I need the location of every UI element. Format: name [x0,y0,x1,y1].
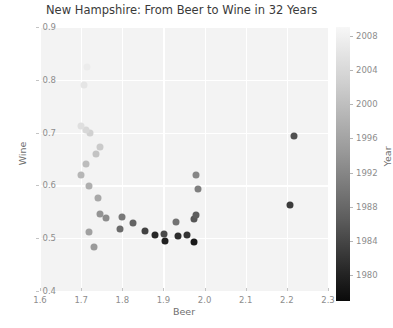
x-tickmark [163,288,164,291]
gridline-horizontal [40,185,328,186]
gridline-vertical [122,27,123,291]
scatter-point[interactable] [195,186,202,193]
x-tick-label: 1.8 [116,295,130,305]
scatter-point[interactable] [141,228,148,235]
y-tickmark [36,238,39,239]
scatter-point[interactable] [172,219,179,226]
x-tickmark [328,288,329,291]
colorbar-tick-label: 1992 [356,168,378,178]
gridline-horizontal [40,238,328,239]
scatter-point[interactable] [192,212,199,219]
x-tick-label: 2.1 [239,295,253,305]
colorbar-tickmark [350,173,353,174]
scatter-point[interactable] [152,232,159,239]
y-tickmark [36,133,39,134]
colorbar-gradient [336,27,350,301]
gridline-vertical [163,27,164,291]
x-tickmark [246,288,247,291]
y-tick-label: 0.6 [42,180,56,190]
scatter-point[interactable] [96,211,103,218]
chart-title: New Hampshire: From Beer to Wine in 32 Y… [46,3,336,17]
colorbar-tick-label: 2008 [356,31,378,41]
colorbar-tick-label: 1980 [356,270,378,280]
scatter-point[interactable] [78,171,85,178]
plot-area[interactable] [40,27,328,291]
y-tickmark [36,185,39,186]
y-tickmark [36,27,39,28]
scatter-point[interactable] [117,225,124,232]
colorbar-tickmark [350,241,353,242]
y-axis-label: Wine [17,124,28,184]
scatter-point[interactable] [96,144,103,151]
x-tick-label: 2.3 [321,295,335,305]
x-axis-label: Beer [40,306,328,317]
x-tick-label: 1.6 [33,295,47,305]
colorbar-tickmark [350,104,353,105]
x-tickmark [40,288,41,291]
colorbar-tickmark [350,70,353,71]
scatter-point[interactable] [191,239,198,246]
x-tick-label: 2.2 [280,295,294,305]
scatter-point[interactable] [91,244,98,251]
x-tick-label: 1.7 [74,295,88,305]
scatter-point[interactable] [83,161,90,168]
gridline-horizontal [40,27,328,28]
scatter-point[interactable] [184,232,191,239]
colorbar-tick-label: 2004 [356,65,378,75]
scatter-point[interactable] [85,228,92,235]
gridline-vertical [287,27,288,291]
scatter-point[interactable] [92,150,99,157]
scatter-point[interactable] [95,195,102,202]
scatter-point[interactable] [174,232,181,239]
y-tick-label: 0.4 [42,286,56,296]
scatter-point[interactable] [287,201,294,208]
scatter-point[interactable] [85,183,92,190]
colorbar-tick-label: 1996 [356,133,378,143]
colorbar-tickmark [350,138,353,139]
scatter-point[interactable] [129,220,136,227]
colorbar-tick-label: 1984 [356,236,378,246]
scatter-point[interactable] [162,238,169,245]
colorbar-label: Year [382,132,393,182]
scatter-point[interactable] [192,171,199,178]
gridline-vertical [81,27,82,291]
scatter-point[interactable] [119,214,126,221]
gridline-vertical [40,27,41,291]
x-tickmark [81,288,82,291]
y-tickmark [36,291,39,292]
scatter-point[interactable] [291,132,298,139]
colorbar-tickmark [350,207,353,208]
colorbar-tick-label: 1988 [356,202,378,212]
x-tick-label: 1.9 [157,295,171,305]
gridline-vertical [246,27,247,291]
scatter-point[interactable] [78,123,85,130]
gridline-vertical [205,27,206,291]
y-tickmark [36,80,39,81]
colorbar-tickmark [350,275,353,276]
scatter-point[interactable] [102,215,109,222]
y-tick-label: 0.8 [42,75,56,85]
scatter-point[interactable] [84,63,91,70]
y-tick-label: 0.7 [42,128,56,138]
colorbar-tickmark [350,36,353,37]
y-tick-label: 0.5 [42,233,56,243]
x-tickmark [122,288,123,291]
colorbar-tick-label: 2000 [356,99,378,109]
x-tick-label: 2.0 [198,295,212,305]
y-tick-label: 0.9 [42,22,56,32]
x-tickmark [205,288,206,291]
colorbar[interactable]: Year 19801984198819921996200020042008 [336,27,386,301]
scatter-point[interactable] [161,230,168,237]
x-tickmark [287,288,288,291]
scatter-point[interactable] [81,82,88,89]
